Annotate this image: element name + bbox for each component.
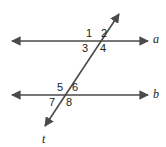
angle-label-3: 3 <box>82 43 88 54</box>
angle-label-7: 7 <box>49 97 55 108</box>
line-label-t: t <box>42 133 45 145</box>
line-t-segment <box>45 14 119 126</box>
geometry-figure: 1 2 3 4 5 6 7 8 a b t <box>0 0 166 147</box>
angle-label-1: 1 <box>86 28 92 39</box>
angle-label-8: 8 <box>66 97 72 108</box>
angle-label-5: 5 <box>57 82 63 93</box>
line-label-a: a <box>153 33 159 45</box>
angle-label-4: 4 <box>100 43 106 54</box>
angle-label-6: 6 <box>72 82 78 93</box>
angle-label-2: 2 <box>101 28 107 39</box>
line-label-b: b <box>153 88 159 100</box>
geometry-diagram-svg <box>0 0 166 147</box>
